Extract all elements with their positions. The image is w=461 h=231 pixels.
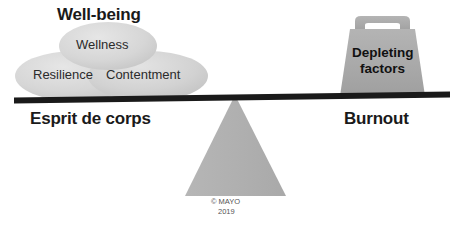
weight-label-line2: factors [360,62,405,76]
bubble-resilience-label: Resilience [33,68,93,81]
right-side-label: Burnout [344,110,409,127]
fulcrum-triangle [185,95,286,196]
bubble-wellness-label: Wellness [76,38,129,51]
copyright-line2: 2019 [218,208,235,216]
copyright-line1: © MAYO [211,198,240,206]
weight-label-line1: Depleting [352,46,414,60]
balance-scale-diagram: Well-being Wellness Resilience Contentme… [0,0,461,231]
page-title: Well-being [57,6,141,23]
bubble-contentment-label: Contentment [106,68,180,81]
left-side-label: Esprit de corps [30,110,151,127]
